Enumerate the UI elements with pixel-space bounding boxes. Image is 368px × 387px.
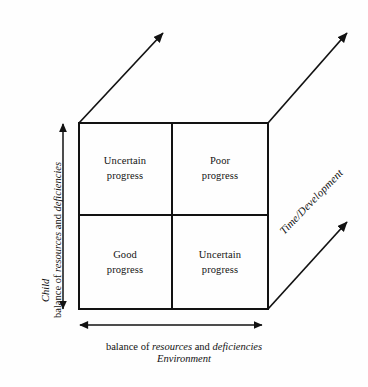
quadrant-bottom-left-line2: progress bbox=[107, 263, 143, 277]
x-axis-description-word2: deficiencies bbox=[212, 341, 262, 352]
quadrant-top-right: Poor progress bbox=[173, 123, 267, 214]
x-axis-description-middle: and bbox=[192, 341, 212, 352]
y-axis-description-middle: and bbox=[52, 211, 63, 231]
x-axis-description: balance of resources and deficiencies bbox=[0, 341, 368, 352]
quadrant-top-right-line1: Poor bbox=[210, 154, 230, 168]
quadrant-top-right-line2: progress bbox=[202, 169, 238, 183]
y-axis-description-prefix: balance of bbox=[52, 272, 63, 318]
y-axis-description: balance of resources and deficiencies bbox=[52, 162, 63, 318]
depth-edge-top-left bbox=[79, 33, 163, 123]
y-axis-description-word1: resources bbox=[52, 232, 63, 272]
x-axis-label-group: balance of resources and deficiencies En… bbox=[0, 341, 368, 364]
y-axis-description-word2: deficiencies bbox=[52, 162, 63, 212]
quadrant-top-left-line1: Uncertain bbox=[104, 154, 146, 168]
x-axis-title: Environment bbox=[0, 353, 368, 364]
depth-edge-top-right bbox=[268, 33, 347, 123]
y-axis-title: Child bbox=[40, 279, 51, 302]
figure-canvas: Uncertain progress Poor progress Good pr… bbox=[0, 0, 368, 387]
quadrant-bottom-right: Uncertain progress bbox=[173, 216, 267, 309]
quadrant-top-left-line2: progress bbox=[107, 169, 143, 183]
depth-edge-bottom-right bbox=[268, 222, 347, 309]
quadrant-bottom-right-line2: progress bbox=[202, 263, 238, 277]
x-axis-description-word1: resources bbox=[152, 341, 192, 352]
x-axis-description-prefix: balance of bbox=[106, 341, 152, 352]
quadrant-bottom-right-line1: Uncertain bbox=[199, 248, 241, 262]
y-axis-title-text: Child bbox=[40, 279, 51, 302]
quadrant-bottom-left: Good progress bbox=[79, 216, 171, 309]
quadrant-top-left: Uncertain progress bbox=[79, 123, 171, 214]
quadrant-bottom-left-line1: Good bbox=[113, 248, 137, 262]
